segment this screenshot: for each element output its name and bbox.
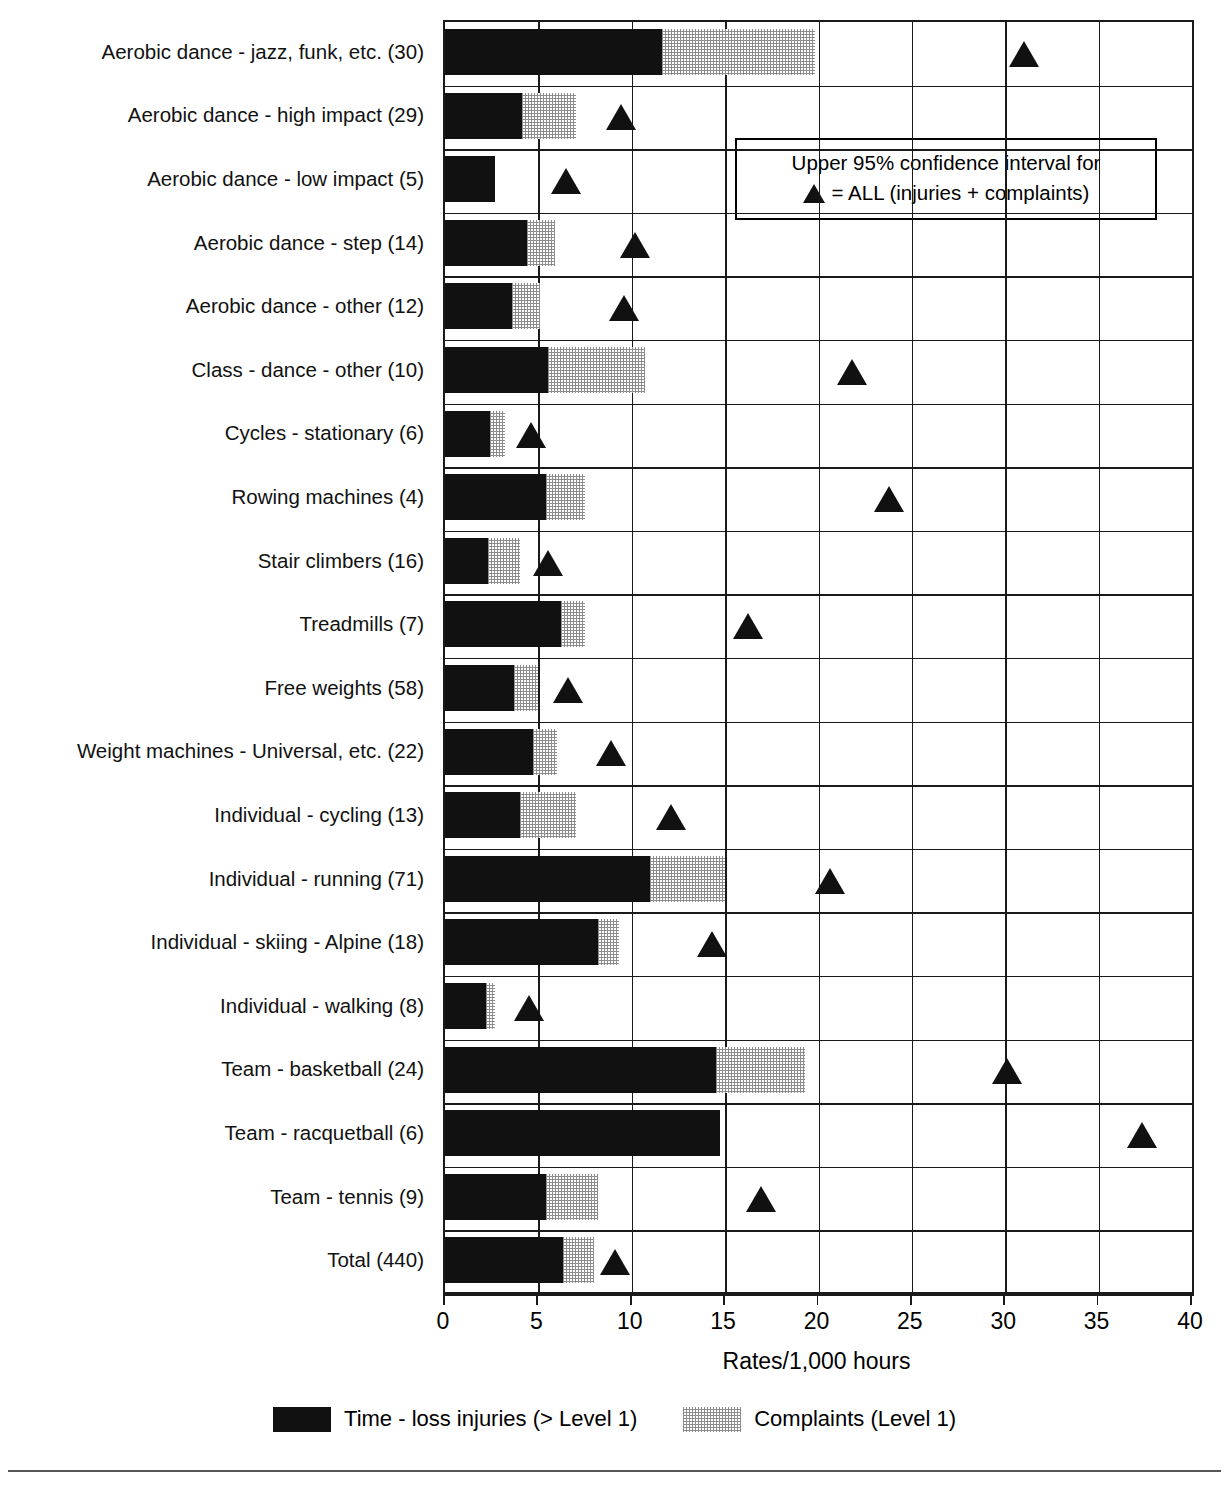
x-axis-tick-label: 35 xyxy=(1084,1308,1110,1335)
bar-time-loss-injuries xyxy=(445,983,486,1029)
bar-complaints xyxy=(514,665,538,711)
chart-row xyxy=(445,404,1192,468)
chart-row xyxy=(445,531,1192,595)
y-axis-label: Individual - walking (8) xyxy=(220,995,424,1017)
chart-row xyxy=(445,1040,1192,1104)
bar-complaints xyxy=(650,856,725,902)
upper-ci-triangle-marker xyxy=(516,422,546,448)
y-axis-label: Individual - skiing - Alpine (18) xyxy=(151,931,424,953)
chart-legend: Time - loss injuries (> Level 1) Complai… xyxy=(0,1406,1229,1432)
bar-time-loss-injuries xyxy=(445,729,533,775)
chart-row xyxy=(445,340,1192,404)
chart-row xyxy=(445,86,1192,150)
bar-time-loss-injuries xyxy=(445,283,512,329)
upper-ci-triangle-marker xyxy=(1127,1122,1157,1148)
upper-ci-triangle-marker xyxy=(533,550,563,576)
upper-ci-triangle-marker xyxy=(609,295,639,321)
footer-rule xyxy=(8,1470,1221,1472)
bar-complaints xyxy=(520,792,576,838)
y-axis-label: Rowing machines (4) xyxy=(231,486,424,508)
y-axis-label: Aerobic dance - step (14) xyxy=(194,232,424,254)
chart-row xyxy=(445,658,1192,722)
chart-row xyxy=(445,22,1192,86)
bar-complaints xyxy=(486,983,495,1029)
legend-swatch-dark-icon xyxy=(273,1407,331,1432)
bar-time-loss-injuries xyxy=(445,1237,563,1283)
upper-ci-triangle-marker xyxy=(551,168,581,194)
legend-item-time-loss-injuries: Time - loss injuries (> Level 1) xyxy=(273,1406,637,1432)
x-axis-tick-label: 5 xyxy=(530,1308,543,1335)
bar-complaints xyxy=(598,919,619,965)
legend-swatch-light-icon xyxy=(683,1407,741,1432)
y-axis-label: Aerobic dance - high impact (29) xyxy=(128,104,424,126)
upper-ci-triangle-marker xyxy=(553,677,583,703)
upper-ci-triangle-marker xyxy=(874,486,904,512)
upper-ci-triangle-marker xyxy=(697,931,727,957)
bar-time-loss-injuries xyxy=(445,856,650,902)
bar-time-loss-injuries xyxy=(445,919,598,965)
bar-time-loss-injuries xyxy=(445,665,514,711)
bar-complaints xyxy=(548,347,645,393)
chart-row xyxy=(445,785,1192,849)
x-axis-tick-label: 10 xyxy=(617,1308,643,1335)
bar-time-loss-injuries xyxy=(445,347,548,393)
x-axis-tick-label: 15 xyxy=(710,1308,736,1335)
bar-complaints xyxy=(488,538,520,584)
y-axis-label: Stair climbers (16) xyxy=(258,550,424,572)
bar-time-loss-injuries xyxy=(445,156,495,202)
legend-label-complaints: Complaints (Level 1) xyxy=(754,1406,956,1432)
bar-complaints xyxy=(490,411,505,457)
upper-ci-triangle-marker xyxy=(733,613,763,639)
bar-complaints xyxy=(561,601,585,647)
x-axis-tick xyxy=(443,1292,445,1305)
bar-complaints xyxy=(716,1047,806,1093)
upper-ci-triangle-marker xyxy=(746,1186,776,1212)
bar-time-loss-injuries xyxy=(445,538,488,584)
chart-row xyxy=(445,149,1192,213)
x-axis-tick-label: 20 xyxy=(804,1308,830,1335)
y-axis-label: Weight machines - Universal, etc. (22) xyxy=(77,740,424,762)
bar-time-loss-injuries xyxy=(445,1174,546,1220)
chart-row xyxy=(445,912,1192,976)
chart-row xyxy=(445,1103,1192,1167)
legend-label-time-loss-injuries: Time - loss injuries (> Level 1) xyxy=(344,1406,637,1432)
bar-time-loss-injuries xyxy=(445,411,490,457)
chart-row xyxy=(445,1167,1192,1231)
chart-row xyxy=(445,722,1192,786)
bar-complaints xyxy=(527,220,555,266)
bar-complaints xyxy=(546,1174,598,1220)
y-axis-label: Aerobic dance - low impact (5) xyxy=(147,168,424,190)
x-axis-tick xyxy=(536,1292,538,1305)
y-axis-label: Team - basketball (24) xyxy=(221,1058,424,1080)
chart-row xyxy=(445,976,1192,1040)
bar-time-loss-injuries xyxy=(445,93,522,139)
upper-ci-triangle-marker xyxy=(606,104,636,130)
x-axis-tick xyxy=(1003,1292,1005,1305)
bar-complaints xyxy=(662,29,815,75)
bar-time-loss-injuries xyxy=(445,29,662,75)
bar-time-loss-injuries xyxy=(445,601,561,647)
bar-complaints xyxy=(563,1237,595,1283)
chart-row xyxy=(445,213,1192,277)
y-axis-label: Treadmills (7) xyxy=(299,613,424,635)
y-axis-label: Aerobic dance - jazz, funk, etc. (30) xyxy=(102,41,424,63)
chart-row xyxy=(445,849,1192,913)
upper-ci-triangle-marker xyxy=(514,995,544,1021)
y-axis-label: Free weights (58) xyxy=(264,677,424,699)
y-axis-label: Cycles - stationary (6) xyxy=(225,422,424,444)
plot-area: Upper 95% confidence interval for = ALL … xyxy=(443,20,1194,1296)
upper-ci-triangle-marker xyxy=(1009,41,1039,67)
bar-time-loss-injuries xyxy=(445,1047,716,1093)
x-axis-tick-label: 40 xyxy=(1177,1308,1203,1335)
y-axis-label: Individual - running (71) xyxy=(209,868,424,890)
x-axis-tick xyxy=(1190,1292,1192,1305)
y-axis-label: Aerobic dance - other (12) xyxy=(186,295,424,317)
bar-time-loss-injuries xyxy=(445,792,520,838)
x-axis-tick-label: 30 xyxy=(990,1308,1016,1335)
bar-time-loss-injuries xyxy=(445,220,527,266)
y-axis-label: Class - dance - other (10) xyxy=(192,359,424,381)
y-axis-label: Total (440) xyxy=(327,1249,424,1271)
upper-ci-triangle-marker xyxy=(837,359,867,385)
legend-item-complaints: Complaints (Level 1) xyxy=(683,1406,956,1432)
chart-row xyxy=(445,1230,1192,1294)
